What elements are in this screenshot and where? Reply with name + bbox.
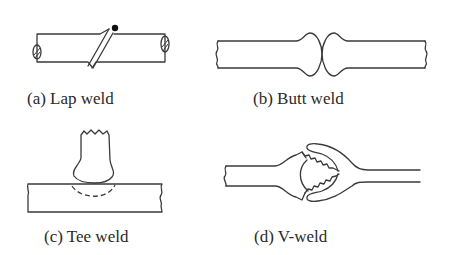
- caption-tee-weld: (c) Tee weld: [44, 228, 128, 245]
- butt-weld-drawing: [216, 33, 427, 76]
- weld-types-figure: (a) Lap weld (b) Butt weld (c) Tee weld …: [0, 0, 449, 255]
- weld-bead-dot-icon: [112, 25, 118, 31]
- caption-butt-weld: (b) Butt weld: [253, 90, 344, 107]
- caption-lap-weld: (a) Lap weld: [27, 90, 114, 107]
- weld-diagram-canvas: [0, 0, 449, 255]
- lap-weld-drawing: [33, 25, 169, 68]
- caption-v-weld: (d) V-weld: [254, 228, 327, 245]
- v-weld-drawing: [224, 144, 420, 202]
- tee-weld-drawing: [27, 130, 162, 212]
